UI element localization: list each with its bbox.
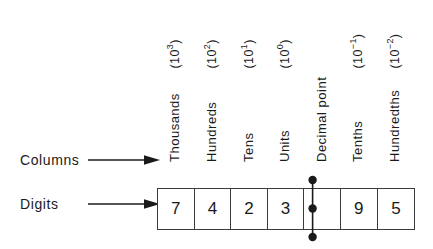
column-name-tenths: Tenths bbox=[351, 121, 364, 162]
digit-cell-2: 2 bbox=[231, 189, 268, 229]
exponent-close-paren: ) bbox=[351, 33, 365, 38]
column-name-units: Units bbox=[278, 130, 291, 162]
exponent-close-paren: ) bbox=[241, 39, 255, 44]
exponent-base: (10 bbox=[204, 49, 218, 68]
digit-cell-5: 9 bbox=[341, 189, 378, 229]
digit-cell-decimal-point bbox=[304, 189, 341, 229]
exponent-base: (10 bbox=[168, 49, 182, 68]
column-exponent-1: (102) bbox=[205, 39, 218, 68]
digit-cell-6: 5 bbox=[378, 189, 415, 229]
exponent-close-paren: ) bbox=[278, 39, 292, 44]
exponent-base: (10 bbox=[387, 49, 401, 68]
digit-cell-1: 4 bbox=[195, 189, 232, 229]
exponent-power: 2 bbox=[202, 43, 212, 48]
columns-arrow-icon bbox=[88, 154, 160, 166]
exponent-base: (10 bbox=[351, 49, 365, 68]
exponent-close-paren: ) bbox=[168, 39, 182, 44]
exponent-power: 1 bbox=[239, 43, 249, 48]
column-exponent-0: (103) bbox=[169, 39, 182, 68]
column-exponent-2: (101) bbox=[242, 39, 255, 68]
column-name-hundreds: Hundreds bbox=[205, 102, 218, 162]
exponent-power: −2 bbox=[385, 38, 395, 49]
exponent-close-paren: ) bbox=[387, 33, 401, 38]
digit-cell-0: 7 bbox=[158, 189, 195, 229]
digit-cell-3: 3 bbox=[268, 189, 305, 229]
digits-arrow-icon bbox=[88, 198, 160, 210]
column-name-hundredths: Hundredths bbox=[388, 90, 401, 162]
column-name-thousands: Thousands bbox=[168, 93, 181, 162]
exponent-close-paren: ) bbox=[204, 39, 218, 44]
column-exponent-3: (100) bbox=[279, 39, 292, 68]
digits-row-label: Digits bbox=[20, 196, 59, 212]
digit-boxes-row: 742395 bbox=[157, 188, 415, 230]
exponent-base: (10 bbox=[241, 49, 255, 68]
exponent-power: 3 bbox=[166, 43, 176, 48]
exponent-power: 0 bbox=[275, 43, 285, 48]
column-exponent-6: (10−2) bbox=[388, 33, 401, 68]
place-value-chart-diagram: Columns Digits ThousandsHundredsTensUnit… bbox=[0, 0, 433, 249]
columns-row-label: Columns bbox=[20, 152, 79, 168]
exponent-power: −1 bbox=[349, 38, 359, 49]
column-name-tens: Tens bbox=[242, 133, 255, 162]
exponent-base: (10 bbox=[278, 49, 292, 68]
column-name-decimal-point: Decimal point bbox=[315, 77, 328, 162]
column-exponent-5: (10−1) bbox=[352, 33, 365, 68]
